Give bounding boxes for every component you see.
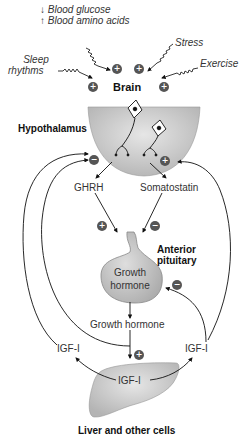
growth-hormone-cell-label-line2: hormone	[108, 280, 152, 291]
minus-sign-icon: −	[150, 221, 160, 231]
anterior-pituitary-label-line1: Anterior	[157, 244, 196, 255]
plus-sign-icon: +	[160, 156, 170, 166]
ghrh-release-arrow	[96, 162, 112, 178]
liver-shape	[89, 363, 179, 417]
exercise-input-arrow	[162, 68, 198, 78]
growth-hormone-release-label: Growth hormone	[90, 319, 164, 330]
sleep-label: Sleep	[16, 54, 56, 65]
blood-glucose-label: ↓ Blood glucose	[40, 4, 111, 15]
plus-sign-icon: +	[134, 64, 144, 74]
blood-amino-acids-label: ↑ Blood amino acids	[40, 15, 130, 26]
brain-label: Brain	[113, 82, 141, 93]
hypothalamus-label: Hypothalamus	[18, 123, 87, 134]
igf-left-label: IGF-I	[57, 343, 80, 354]
igf-right-label: IGF-I	[185, 343, 208, 354]
igf-liver-label: IGF-I	[118, 375, 141, 386]
rhythms-label: rhythms	[8, 65, 44, 76]
igf-right-pituitary-arc	[166, 288, 206, 342]
blood-input-arrow	[86, 48, 110, 70]
hypothalamus-shape	[88, 107, 200, 176]
sleep-input-arrow	[58, 69, 92, 78]
plus-sign-icon: +	[88, 82, 98, 92]
exercise-label: Exercise	[200, 58, 238, 69]
growth-hormone-cell-label-line1: Growth	[108, 267, 152, 278]
plus-sign-icon: +	[112, 64, 122, 74]
minus-sign-icon: −	[172, 280, 182, 290]
stress-input-arrow	[148, 44, 173, 71]
down-arrow-icon: ↓	[40, 4, 45, 15]
plus-sign-icon: +	[97, 221, 107, 231]
stress-label: Stress	[175, 37, 203, 48]
somatostatin-label: Somatostatin	[140, 182, 198, 193]
up-arrow-icon: ↑	[40, 15, 45, 26]
plus-sign-icon: +	[159, 82, 169, 92]
liver-label: Liver and other cells	[78, 425, 175, 436]
anterior-pituitary-label-line2: pituitary	[157, 255, 196, 266]
ghrh-label: GHRH	[74, 182, 103, 193]
plus-sign-icon: +	[134, 350, 144, 360]
minus-sign-icon: −	[89, 155, 99, 165]
